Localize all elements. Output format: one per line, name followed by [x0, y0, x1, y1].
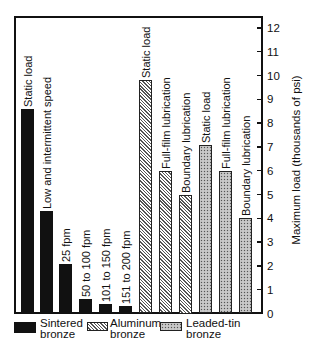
bar-label: 25 fpm [60, 228, 72, 262]
y-tick-mark [257, 75, 262, 77]
legend-swatch [14, 322, 36, 333]
bar-label: 50 to 100 fpm [80, 230, 92, 297]
y-tick-label: 5 [267, 189, 273, 201]
bar [239, 218, 252, 313]
y-tick-mark [257, 241, 262, 243]
legend-label: bronze [186, 329, 221, 340]
bar-label: Low and intermittent speed [41, 77, 53, 209]
y-tick-label: 7 [267, 141, 273, 153]
y-tick-mark [257, 122, 262, 124]
bar-label: Full-film lubrication [160, 77, 172, 169]
y-tick-mark [257, 265, 262, 267]
y-tick-label: 6 [267, 165, 273, 177]
bar [99, 304, 112, 314]
bar [179, 195, 192, 314]
bar [59, 264, 72, 314]
bar-label: Full-film lubrication [220, 77, 232, 169]
bar [219, 171, 232, 314]
legend-swatch [160, 322, 182, 331]
bar-label: 151 to 200 fpm [120, 231, 132, 304]
legend-label: bronze [110, 329, 145, 340]
y-tick-mark [257, 99, 262, 101]
y-tick-mark [257, 170, 262, 172]
bar [199, 145, 212, 314]
bar-label: Static load [22, 55, 34, 106]
y-tick-label: 3 [267, 236, 273, 248]
y-tick-mark [257, 27, 262, 29]
legend-label: bronze [40, 329, 75, 340]
y-tick-mark [257, 289, 262, 291]
y-axis-line [261, 16, 263, 314]
y-tick-label: 8 [267, 117, 273, 129]
y-tick-label: 11 [267, 46, 279, 58]
bar [79, 299, 92, 313]
y-tick-label: 2 [267, 260, 273, 272]
bar [40, 211, 53, 313]
legend-label: Aluminum [110, 318, 161, 329]
bar-label: Boundary lubrication [240, 116, 252, 216]
bar-label: Boundary lubrication [180, 92, 192, 192]
bar [119, 306, 132, 313]
bar [159, 171, 172, 314]
legend-label: Sintered [40, 318, 83, 329]
bar-label: Static load [140, 27, 152, 78]
bar-label: Static load [200, 91, 212, 142]
bar [139, 80, 152, 313]
bar-label: 101 to 150 fpm [100, 229, 112, 302]
y-tick-mark [257, 313, 262, 315]
y-tick-mark [257, 51, 262, 53]
legend-label: Leaded-tin [186, 318, 240, 329]
y-tick-label: 10 [267, 70, 280, 82]
y-tick-mark [257, 218, 262, 220]
y-tick-label: 9 [267, 93, 273, 105]
bar [21, 109, 34, 314]
y-tick-label: 4 [267, 212, 273, 224]
y-tick-label: 0 [267, 308, 273, 320]
y-tick-label: 12 [267, 22, 280, 34]
y-tick-mark [257, 146, 262, 148]
y-tick-label: 1 [267, 284, 273, 296]
y-tick-mark [257, 194, 262, 196]
legend-swatch [87, 322, 108, 331]
y-axis-label: Maximum load (thousands of psi) [290, 75, 302, 244]
